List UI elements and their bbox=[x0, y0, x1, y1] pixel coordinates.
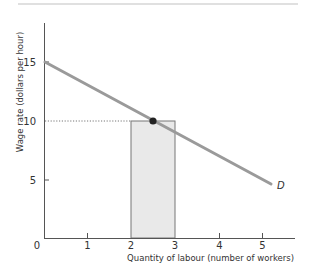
shaded-area bbox=[131, 121, 175, 238]
demand-curve-label: D bbox=[277, 180, 285, 191]
equilibrium-point bbox=[149, 117, 156, 124]
x-tick-label-3: 3 bbox=[172, 240, 178, 251]
y-axis-title: Wage rate (dollars per hour) bbox=[15, 32, 25, 152]
x-tick-label-1: 1 bbox=[84, 240, 90, 251]
x-tick-label-4: 4 bbox=[216, 240, 222, 251]
y-tick-label-5: 5 bbox=[30, 175, 36, 186]
origin-label: 0 bbox=[34, 240, 40, 251]
x-axis-title: Quantity of labour (number of workers) bbox=[127, 253, 294, 263]
y-tick-label-15: 15 bbox=[23, 57, 36, 68]
y-tick-label-10: 10 bbox=[23, 116, 36, 127]
x-tick-label-2: 2 bbox=[128, 240, 134, 251]
chart-canvas: 15 10 5 0 1 2 3 4 5 Quantity of labour (… bbox=[0, 0, 311, 278]
x-tick-label-5: 5 bbox=[259, 240, 265, 251]
